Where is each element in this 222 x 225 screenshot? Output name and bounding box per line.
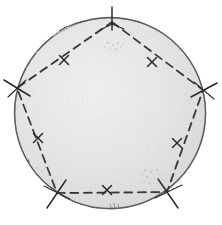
shaded-circle-group xyxy=(15,18,206,209)
figure-canvas xyxy=(0,0,222,225)
pentagon-in-circle-diagram xyxy=(0,0,222,225)
